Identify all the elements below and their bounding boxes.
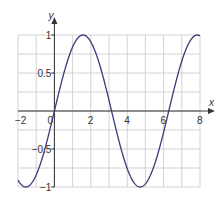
y-tick-label: 0.5: [37, 68, 51, 79]
y-axis-label: y: [47, 10, 54, 21]
x-axis-label: x: [208, 97, 215, 108]
x-tick-label: −2: [15, 115, 27, 126]
y-tick-label: −1: [40, 182, 52, 193]
sine-chart: x y −20246810.5−0.5−1: [0, 0, 223, 201]
x-axis-arrow-icon: [208, 108, 215, 114]
x-tick-label: 4: [124, 115, 130, 126]
y-tick-label: 1: [46, 30, 52, 41]
x-tick-label: 2: [88, 115, 94, 126]
x-tick-label: 8: [197, 115, 203, 126]
y-tick-label: −0.5: [32, 144, 52, 155]
